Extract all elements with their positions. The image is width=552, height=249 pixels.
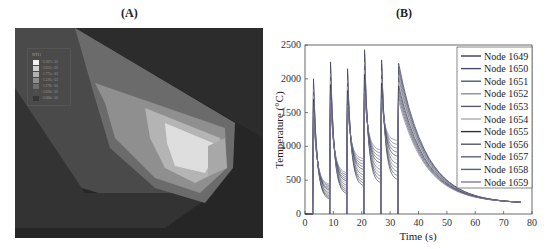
y-tick-label: 0 [296, 208, 301, 219]
y-tick-label: 500 [286, 174, 301, 185]
legend-entry: Node 1650 [484, 63, 528, 74]
x-tick-label: 20 [357, 217, 367, 228]
x-tick-label: 60 [470, 217, 480, 228]
y-tick-label: 2000 [281, 73, 301, 84]
temperature-chart: 0102030405060708005001000150020002500 Ti… [0, 0, 552, 249]
legend-entry: Node 1654 [484, 114, 528, 125]
legend-entry: Node 1653 [484, 101, 528, 112]
legend-entry: Node 1652 [484, 88, 528, 99]
legend-entry: Node 1658 [484, 164, 528, 175]
x-tick-label: 80 [527, 217, 537, 228]
y-axis-title: Temperature (°C) [273, 91, 286, 169]
legend-entry: Node 1651 [484, 76, 528, 87]
y-tick-label: 2500 [281, 39, 301, 50]
legend-entry: Node 1649 [484, 51, 528, 62]
chart-legend: Node 1649Node 1650Node 1651Node 1652Node… [457, 47, 532, 188]
x-axis-title: Time (s) [399, 230, 437, 243]
x-tick-label: 40 [414, 217, 424, 228]
legend-entry: Node 1655 [484, 126, 528, 137]
x-tick-label: 0 [303, 217, 308, 228]
x-tick-label: 10 [328, 217, 338, 228]
x-tick-label: 70 [499, 217, 509, 228]
legend-entry: Node 1657 [484, 151, 528, 162]
x-tick-label: 50 [442, 217, 452, 228]
x-tick-label: 30 [385, 217, 395, 228]
legend-entry: Node 1659 [484, 177, 528, 188]
legend-entry: Node 1656 [484, 139, 528, 150]
